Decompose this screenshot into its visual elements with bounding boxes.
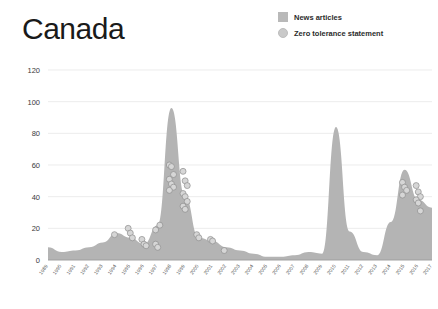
zero-tolerance-dot bbox=[155, 244, 161, 250]
x-axis-tick-label: 2010 bbox=[326, 263, 337, 276]
zero-tolerance-dot bbox=[180, 168, 186, 174]
zero-tolerance-dot bbox=[166, 187, 172, 193]
zero-tolerance-dot bbox=[182, 206, 188, 212]
x-axis-tick-label: 2007 bbox=[284, 263, 295, 276]
zero-tolerance-dot bbox=[221, 248, 227, 254]
zero-tolerance-dot bbox=[196, 235, 202, 241]
x-axis-tick-label: 2006 bbox=[271, 263, 282, 276]
x-axis-tick-label: 1991 bbox=[65, 263, 76, 276]
zero-tolerance-dot bbox=[417, 208, 423, 214]
zero-tolerance-dot bbox=[210, 238, 216, 244]
x-axis-tick-label: 1993 bbox=[92, 263, 103, 276]
zero-tolerance-dot bbox=[399, 192, 405, 198]
zero-tolerance-dot bbox=[184, 198, 190, 204]
page-title: Canada bbox=[22, 14, 124, 44]
zero-tolerance-dot bbox=[153, 227, 159, 233]
x-axis-tick-label: 2000 bbox=[188, 263, 199, 276]
x-axis-tick-label: 2013 bbox=[367, 263, 378, 276]
y-axis-tick-label: 60 bbox=[32, 161, 40, 170]
x-axis-tick-label: 1992 bbox=[79, 263, 90, 276]
news-articles-swatch-icon bbox=[278, 12, 288, 22]
zero-tolerance-dot bbox=[184, 183, 190, 189]
x-axis-tick-label: 2008 bbox=[298, 263, 309, 276]
zero-tolerance-dot bbox=[157, 222, 163, 228]
x-axis-tick-label: 2003 bbox=[230, 263, 241, 276]
y-axis-tick-label: 0 bbox=[36, 256, 40, 265]
news-articles-area bbox=[48, 108, 432, 260]
zero-tolerance-dot bbox=[129, 235, 135, 241]
y-axis-tick-label: 80 bbox=[32, 129, 40, 138]
zero-tolerance-dot bbox=[415, 200, 421, 206]
x-axis-tick-label: 2005 bbox=[257, 263, 268, 276]
x-axis-tick-label: 2014 bbox=[380, 263, 391, 276]
zero-tolerance-dot bbox=[111, 232, 117, 238]
x-axis-tick-label: 2009 bbox=[312, 263, 323, 276]
x-axis-tick-label: 1997 bbox=[147, 263, 158, 276]
chart-legend: News articles Zero tolerance statement bbox=[278, 11, 383, 39]
zero-tolerance-dot bbox=[171, 172, 177, 178]
x-axis-tick-label: 2017 bbox=[422, 263, 433, 276]
x-axis-tick-label: 1990 bbox=[51, 263, 62, 276]
zero-tolerance-dot bbox=[413, 183, 419, 189]
zero-tolerance-dot bbox=[404, 187, 410, 193]
x-axis-tick-label: 2002 bbox=[216, 263, 227, 276]
x-axis-tick-label: 1998 bbox=[161, 263, 172, 276]
x-axis-tick-label: 2011 bbox=[339, 263, 350, 275]
area-chart-svg: 0204060801001201989199019911992199319941… bbox=[0, 62, 438, 309]
zero-tolerance-swatch-icon bbox=[278, 28, 288, 38]
zero-tolerance-dot bbox=[143, 243, 149, 249]
legend-item-zero-tolerance-statement: Zero tolerance statement bbox=[278, 27, 383, 39]
y-axis-tick-label: 120 bbox=[27, 66, 40, 75]
x-axis-tick-label: 1995 bbox=[120, 263, 131, 276]
legend-label-news-articles: News articles bbox=[294, 13, 342, 22]
x-axis-tick-label: 2015 bbox=[394, 263, 405, 276]
zero-tolerance-dot bbox=[168, 164, 174, 170]
x-axis-tick-label: 1999 bbox=[175, 263, 186, 276]
x-axis-tick-label: 1994 bbox=[106, 263, 117, 276]
chart-page: Canada News articles Zero tolerance stat… bbox=[0, 0, 438, 309]
x-axis-tick-label: 2004 bbox=[243, 263, 254, 276]
x-axis-tick-label: 2012 bbox=[353, 263, 364, 276]
x-axis-tick-label: 2001 bbox=[202, 263, 213, 276]
y-axis-tick-label: 20 bbox=[32, 224, 40, 233]
y-axis-tick-label: 100 bbox=[27, 98, 40, 107]
legend-item-news-articles: News articles bbox=[278, 11, 383, 23]
x-axis-tick-label: 1996 bbox=[134, 263, 145, 276]
y-axis-tick-label: 40 bbox=[32, 193, 40, 202]
x-axis-tick-label: 2016 bbox=[408, 263, 419, 276]
chart-plot-area: 0204060801001201989199019911992199319941… bbox=[0, 62, 438, 309]
legend-label-zero-tolerance-statement: Zero tolerance statement bbox=[294, 29, 383, 38]
